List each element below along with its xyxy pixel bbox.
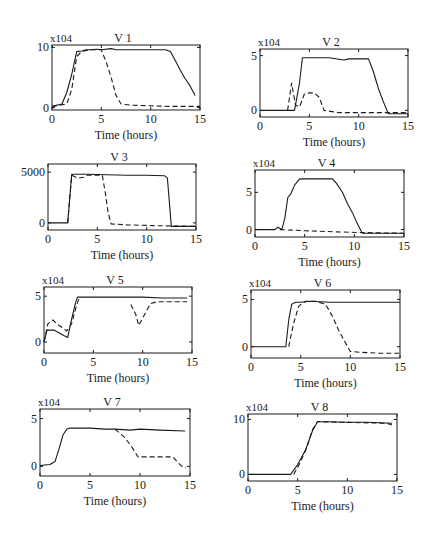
- y-tick-label: 5000: [21, 165, 45, 179]
- plot-frame: [251, 290, 400, 358]
- panel-title: V 7: [103, 395, 120, 409]
- y-tick-label: 0: [251, 103, 257, 117]
- panel-title: V 4: [318, 156, 335, 170]
- y-multiplier-label: x104: [258, 36, 281, 48]
- x-tick-label: 15: [398, 239, 410, 253]
- plot-frame: [52, 45, 200, 110]
- figure-grid: 051015010x104V 1Time (hours)05101505x104…: [0, 0, 430, 544]
- y-tick-label: 0: [43, 101, 49, 115]
- panel-v3: 05101505000V 3Time (hours): [21, 150, 202, 262]
- series-dashed: [288, 83, 408, 113]
- panel-title: V 6: [314, 276, 331, 290]
- x-tick-label: 0: [49, 112, 55, 126]
- x-tick-label: 5: [298, 360, 304, 374]
- panel-v5: 05101505x104V 5Time (hours): [35, 273, 198, 385]
- x-axis-label: Time (hours): [87, 371, 150, 385]
- y-tick-label: 10: [37, 40, 49, 54]
- series-solid: [44, 297, 187, 342]
- series-solid: [248, 422, 392, 475]
- series-solid: [255, 179, 404, 233]
- x-tick-label: 10: [141, 232, 153, 246]
- y-tick-label: 5: [242, 292, 248, 306]
- y-tick-label: 0: [31, 459, 37, 473]
- panel-title: V 1: [114, 31, 131, 45]
- x-tick-label: 0: [41, 355, 47, 369]
- x-tick-label: 15: [194, 112, 206, 126]
- y-tick-label: 0: [246, 223, 252, 237]
- x-tick-label: 5: [302, 239, 308, 253]
- y-tick-label: 0: [239, 467, 245, 481]
- series-dashed: [280, 230, 404, 234]
- series-dashed: [115, 429, 186, 467]
- y-tick-label: 0: [242, 340, 248, 354]
- x-axis-label: Time (hours): [303, 135, 366, 149]
- panel-v1: 051015010x104V 1Time (hours): [37, 31, 206, 142]
- panel-title: V 5: [106, 273, 123, 287]
- x-axis-label: Time (hours): [84, 494, 147, 508]
- x-axis-label: Time (hours): [95, 128, 158, 142]
- x-axis-label: Time (hours): [298, 255, 361, 269]
- series-dashed: [68, 175, 196, 226]
- plot-frame: [255, 170, 404, 237]
- x-tick-label: 10: [341, 483, 353, 497]
- x-tick-label: 0: [257, 119, 263, 133]
- y-multiplier-label: x104: [38, 396, 61, 408]
- x-tick-label: 10: [134, 478, 146, 492]
- series-dashed: [289, 301, 400, 353]
- plot-frame: [248, 414, 397, 481]
- x-tick-label: 15: [186, 355, 198, 369]
- x-tick-label: 15: [184, 478, 196, 492]
- y-tick-label: 0: [39, 216, 45, 230]
- panel-v6: 05101505x104V 6Time (hours): [242, 276, 406, 390]
- x-tick-label: 15: [402, 119, 414, 133]
- x-tick-label: 10: [353, 119, 365, 133]
- series-dashed: [52, 50, 200, 107]
- x-axis-label: Time (hours): [291, 499, 354, 513]
- x-tick-label: 15: [190, 232, 202, 246]
- series-solid: [260, 58, 408, 114]
- x-tick-label: 5: [94, 232, 100, 246]
- panel-v4: 05101505x104V 4Time (hours): [246, 156, 410, 269]
- series-dashed: [294, 422, 392, 475]
- panel-v2: 05101505x104V 2Time (hours): [251, 35, 414, 149]
- x-axis-label: Time (hours): [294, 376, 357, 390]
- x-tick-label: 0: [37, 478, 43, 492]
- x-tick-label: 0: [252, 239, 258, 253]
- x-tick-label: 15: [391, 483, 403, 497]
- series-solid: [48, 174, 196, 226]
- x-tick-label: 5: [295, 483, 301, 497]
- x-tick-label: 0: [245, 483, 251, 497]
- x-tick-label: 10: [344, 360, 356, 374]
- y-multiplier-label: x104: [249, 277, 272, 289]
- panel-v8: 051015010x104V 8Time (hours): [233, 400, 403, 513]
- y-multiplier-label: x104: [42, 274, 65, 286]
- series-solid: [40, 428, 185, 465]
- x-tick-label: 10: [348, 239, 360, 253]
- y-multiplier-label: x104: [50, 32, 73, 44]
- x-tick-label: 10: [145, 112, 157, 126]
- x-tick-label: 0: [45, 232, 51, 246]
- y-multiplier-label: x104: [253, 157, 276, 169]
- series-dashed: [131, 302, 187, 326]
- x-tick-label: 5: [90, 355, 96, 369]
- panel-title: V 2: [322, 35, 339, 49]
- y-tick-label: 5: [31, 412, 37, 426]
- x-tick-label: 5: [306, 119, 312, 133]
- y-tick-label: 5: [246, 185, 252, 199]
- x-tick-label: 5: [87, 478, 93, 492]
- y-tick-label: 10: [233, 412, 245, 426]
- y-tick-label: 0: [35, 335, 41, 349]
- series-dashed: [44, 297, 80, 342]
- x-tick-label: 0: [248, 360, 254, 374]
- y-multiplier-label: x104: [246, 401, 269, 413]
- x-axis-label: Time (hours): [91, 248, 154, 262]
- panel-title: V 8: [311, 400, 328, 414]
- x-tick-label: 10: [137, 355, 149, 369]
- x-tick-label: 5: [98, 112, 104, 126]
- y-tick-label: 5: [35, 289, 41, 303]
- chart-canvas: 051015010x104V 1Time (hours)05101505x104…: [0, 0, 430, 544]
- panel-title: V 3: [110, 150, 127, 164]
- x-tick-label: 15: [394, 360, 406, 374]
- series-solid: [251, 301, 400, 346]
- panel-v7: 05101505x104V 7Time (hours): [31, 395, 196, 508]
